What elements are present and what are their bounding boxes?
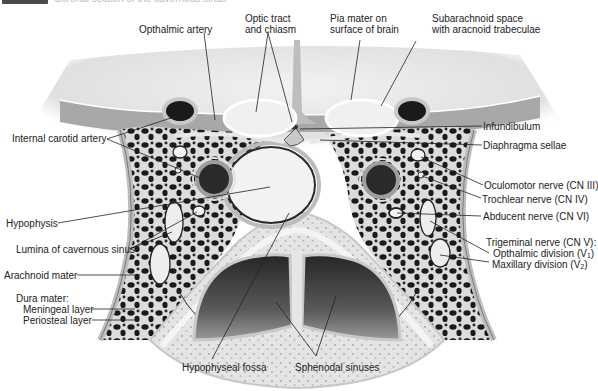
label-optic-tract-line2: and chiasm <box>245 24 296 35</box>
label-sphenodal-sinuses: Sphenodal sinuses <box>295 362 380 373</box>
label-diaphragma-sellae: Diaphragma sellae <box>483 140 566 151</box>
hypophysis <box>227 147 315 223</box>
optic-chiasm-right <box>326 100 398 136</box>
label-trochlear-nerve: Trochlear nerve (CN IV) <box>482 194 588 205</box>
sinus-septum <box>292 250 302 332</box>
oculomotor-nerve <box>411 149 425 161</box>
close-paren: ) <box>591 248 594 259</box>
label-infundibulum: Infundibulum <box>483 121 540 132</box>
label-internal-carotid-artery: Internal carotid artery <box>12 133 107 144</box>
label-pia-mater-line1: Pia mater on <box>330 13 387 24</box>
label-meningeal-layer: Meningeal layer <box>23 304 94 315</box>
label-abducent-nerve: Abducent nerve (CN VI) <box>483 211 589 222</box>
close-paren: ) <box>584 259 587 270</box>
opthalmic-division <box>420 200 436 236</box>
opthalmic-division-text: Opthalmic division (V <box>493 248 587 259</box>
trochlear-nerve <box>418 172 424 178</box>
label-hypophysis: Hypophysis <box>6 218 58 229</box>
internal-carotid-upper-right <box>396 99 428 123</box>
label-opthalmic-artery: Opthalmic artery <box>139 24 212 35</box>
label-subarachnoid-line2: with aracnoid trabeculae <box>432 24 540 35</box>
label-trigeminal-nerve: Trigeminal nerve (CN V): <box>486 237 596 248</box>
internal-carotid-right <box>364 163 398 197</box>
label-periosteal-layer: Periosteal layer <box>23 315 92 326</box>
label-pia-mater-line2: surface of brain <box>330 24 399 35</box>
maxillary-division-text: Maxillary division (V <box>492 259 580 270</box>
label-maxillary-division: Maxillary division (V2) <box>492 259 588 272</box>
label-subarachnoid-line1: Subarachnoid space <box>432 13 523 24</box>
label-lumina-cavernous-sinus: Lumina of cavernous sinus <box>16 244 135 255</box>
internal-carotid-upper-left <box>164 99 196 123</box>
maxillary-division <box>430 239 450 267</box>
label-optic-tract-line1: Optic tract <box>245 13 291 24</box>
label-arachnoid-mater: Arachnoid mater <box>4 270 77 281</box>
optic-chiasm-left <box>224 100 296 136</box>
label-oculomotor-nerve: Oculomotor nerve (CN III) <box>484 180 598 191</box>
label-dura-mater: Dura mater: <box>16 293 69 304</box>
label-hypophyseal-fossa: Hypophyseal fossa <box>182 362 267 373</box>
